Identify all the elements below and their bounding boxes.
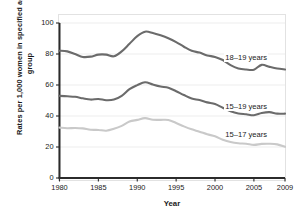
chart-figure: Rates per 1,000 women in specified age g…	[0, 0, 304, 218]
x-tick-label: 1980	[45, 183, 75, 192]
series-label: 15–19 years	[224, 102, 268, 111]
y-tick-label: 80	[32, 49, 54, 58]
x-tick-label: 2005	[239, 183, 269, 192]
x-tick-label: 2009	[270, 183, 300, 192]
x-tick-label: 2000	[200, 183, 230, 192]
x-tick-label: 1985	[83, 183, 113, 192]
gridlines	[60, 23, 286, 147]
y-tick-label: 100	[32, 18, 54, 27]
series-label: 15–17 years	[224, 130, 268, 139]
x-axis-title: Year	[58, 199, 286, 208]
y-tick-label: 40	[32, 111, 54, 120]
y-tick-label: 20	[32, 142, 54, 151]
series-label: 18–19 years	[224, 53, 268, 62]
x-tick-label: 1995	[161, 183, 191, 192]
series-line-18-19------	[60, 32, 286, 70]
x-tick-label: 1990	[122, 183, 152, 192]
y-tick-label: 60	[32, 80, 54, 89]
y-tick-label: 0	[32, 173, 54, 182]
